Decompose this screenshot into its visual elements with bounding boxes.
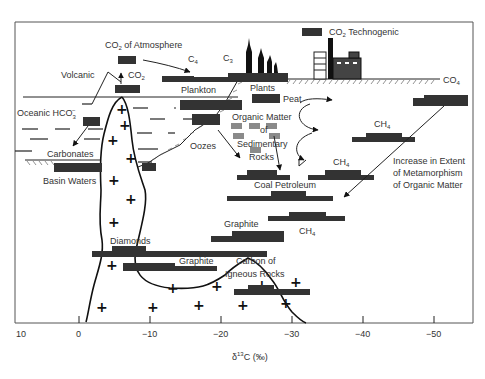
svg-text:+: + <box>290 274 302 290</box>
svg-text:+: + <box>108 172 120 188</box>
label-co2-atmosphere: CO2 of Atmosphere <box>105 40 182 51</box>
label-metamorphism-1: Increase in Extent <box>393 156 466 166</box>
label-basin-waters: Basin Waters <box>43 176 97 186</box>
bar-basin-waters-right <box>142 163 156 171</box>
label-ch4-lower: CH4 <box>299 226 316 237</box>
svg-text:+: + <box>125 150 137 166</box>
label-carbonates: Carbonates <box>47 149 94 159</box>
carbon-isotope-diagram: 10 0 −10 −20 −30 −40 −50 δ13C (‰) <box>0 0 485 379</box>
plants-icon <box>246 38 278 73</box>
svg-text:+: + <box>167 280 179 296</box>
bar-co2-technogenic <box>302 28 322 36</box>
label-diamonds: Diamonds <box>110 236 151 246</box>
label-carbon-igneous-1: Carbon of <box>236 256 276 266</box>
label-oceanic-hco3: Oceanic HCO3− <box>17 107 77 120</box>
label-organic-matter-3: Sedimentary <box>237 139 288 149</box>
label-carbon-igneous-2: Igneous Rocks <box>225 269 285 279</box>
label-graphite-lower: Graphite <box>179 256 214 266</box>
tick-10: 10 <box>16 329 26 339</box>
svg-text:+: + <box>193 297 205 313</box>
label-volcanic: Volcanic <box>61 70 95 80</box>
label-peat: Peat <box>283 94 302 104</box>
x-axis-tick-labels: 10 0 −10 −20 −30 −40 −50 <box>16 329 441 339</box>
label-metamorphism-3: of Organic Matter <box>393 180 463 190</box>
label-organic-matter-4: Rocks <box>249 152 275 162</box>
svg-text:+: + <box>280 295 292 311</box>
label-plankton: Plankton <box>181 85 216 95</box>
bar-plankton-c4 <box>162 76 194 82</box>
hco3-to-carbonates-arrow <box>73 126 88 146</box>
svg-text:+: + <box>96 299 108 315</box>
svg-text:+: + <box>147 299 159 315</box>
tick-minus30: −30 <box>284 329 299 339</box>
svg-text:+: + <box>211 278 223 294</box>
label-ch4-middle: CH4 <box>333 157 350 168</box>
bar-plants-c3 <box>228 73 288 82</box>
bar-oozes-upper <box>192 114 220 125</box>
label-c3: C3 <box>223 53 234 64</box>
label-organic-matter-1: Organic Matter <box>232 112 292 122</box>
label-oozes: Oozes <box>190 141 217 151</box>
bar-top-right-thick <box>424 95 468 103</box>
svg-text:+: + <box>106 257 118 273</box>
tick-minus40: −40 <box>355 329 370 339</box>
tick-minus50: −50 <box>426 329 441 339</box>
label-co2-technogenic: CO2 Technogenic <box>329 27 399 38</box>
atmosphere-to-plankton-arrow <box>143 60 190 72</box>
tick-minus20: −20 <box>213 329 228 339</box>
label-ch4-upper: CH4 <box>374 119 391 130</box>
cycle-arrow-1 <box>299 104 318 130</box>
label-co2-volcanic: CO2 <box>128 70 146 81</box>
tick-0: 0 <box>76 329 81 339</box>
bar-plankton-mid <box>194 77 228 82</box>
cycle-arrow-2 <box>297 133 312 160</box>
label-c4: C4 <box>188 54 199 65</box>
x-axis-label: δ13C (‰) <box>232 351 268 362</box>
bar-marine-organic <box>180 100 242 110</box>
factory-icon <box>314 38 361 79</box>
label-co4: CO4 <box>443 75 461 86</box>
svg-text:+: + <box>119 117 131 133</box>
svg-text:+: + <box>108 214 120 230</box>
svg-text:+: + <box>237 297 249 313</box>
bar-peat <box>252 94 280 103</box>
bar-co2-volcanic <box>115 85 140 93</box>
svg-text:+: + <box>107 132 119 148</box>
cycle-arrow-tail <box>299 160 306 166</box>
label-coal-petroleum: Coal Petroleum <box>254 180 316 190</box>
cycle-arrow-top <box>300 99 332 103</box>
svg-text:+: + <box>125 191 137 207</box>
tick-minus10: −10 <box>142 329 157 339</box>
bar-co2-atmosphere <box>118 56 136 64</box>
bar-basin-waters-left <box>54 163 102 172</box>
label-metamorphism-2: of Metamorphism <box>393 168 463 178</box>
label-plants: Plants <box>250 83 276 93</box>
basin-hatch <box>27 161 54 165</box>
svg-text:+: + <box>116 101 128 117</box>
land-hatch <box>287 80 434 84</box>
bar-oceanic-hco3 <box>83 117 100 126</box>
label-organic-matter-2: of <box>260 125 268 135</box>
x-axis-ticks <box>79 316 434 323</box>
label-graphite-upper: Graphite <box>224 219 259 229</box>
volcanic-magma-body <box>86 97 122 322</box>
